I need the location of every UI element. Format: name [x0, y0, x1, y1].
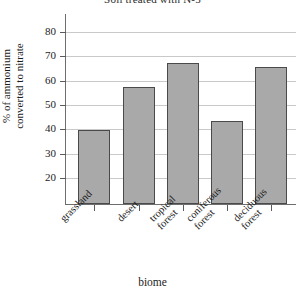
gridline-70 — [66, 56, 296, 57]
chart-title: Soil treated with N-5 — [0, 0, 305, 5]
y-axis-title-line-1: % of ammonium — [0, 11, 13, 161]
y-tick-label-50: 50 — [16, 99, 56, 110]
y-tick-label-60: 60 — [16, 75, 56, 86]
gridline-80 — [66, 32, 296, 33]
bar-deciduous-forest[interactable] — [255, 67, 287, 204]
y-tick-label-30: 30 — [16, 148, 56, 159]
x-tick-mark-grassland — [94, 205, 95, 211]
x-axis-title: biome — [0, 276, 305, 288]
x-tick-mark-coniferous-forest — [227, 205, 228, 211]
bar-tropical-forest[interactable] — [167, 63, 199, 204]
y-tick-label-20: 20 — [16, 172, 56, 183]
y-tick-label-80: 80 — [16, 26, 56, 37]
y-tick-label-70: 70 — [16, 50, 56, 61]
plot-area — [66, 24, 296, 204]
y-tick-label-40: 40 — [16, 123, 56, 134]
bar-chart-figure: Soil treated with N-5 % of ammonium conv… — [0, 0, 305, 296]
bar-desert[interactable] — [123, 87, 155, 204]
